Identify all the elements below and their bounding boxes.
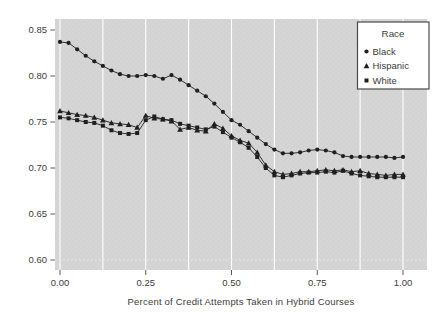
x-tick-label: 1.00 <box>394 277 413 288</box>
series-black-marker <box>118 72 122 76</box>
series-black-marker <box>109 68 113 72</box>
legend-box: RaceBlackHispanicWhite <box>358 22 430 89</box>
legend-item-label: Hispanic <box>373 60 410 71</box>
legend-item-label: White <box>373 75 397 86</box>
chart: 0.850.800.750.700.650.600.000.250.500.75… <box>0 0 438 321</box>
series-black-marker <box>392 156 396 160</box>
series-white-marker <box>255 155 259 159</box>
y-tick-label: 0.70 <box>29 162 48 173</box>
square-legend-icon <box>365 79 369 83</box>
series-black-marker <box>358 155 362 159</box>
y-tick-label: 0.85 <box>29 24 48 35</box>
series-black-marker <box>169 73 173 77</box>
series-black-marker <box>92 59 96 63</box>
series-black-marker <box>127 74 131 78</box>
series-black-marker <box>66 41 70 45</box>
series-black-marker <box>161 77 165 81</box>
series-white-marker <box>109 128 113 132</box>
series-white-marker <box>75 118 79 122</box>
y-tick-label: 0.80 <box>29 70 48 81</box>
y-tick-label: 0.65 <box>29 208 48 219</box>
series-black-marker <box>255 136 259 140</box>
series-black-marker <box>298 150 302 154</box>
chart-canvas: 0.850.800.750.700.650.600.000.250.500.75… <box>0 0 438 321</box>
series-black-marker <box>375 155 379 159</box>
series-black-marker <box>84 54 88 58</box>
series-white-marker <box>144 118 148 122</box>
series-black-marker <box>221 110 225 114</box>
series-black-marker <box>152 74 156 78</box>
y-tick-label: 0.75 <box>29 116 48 127</box>
series-black-marker <box>324 148 328 152</box>
series-white-marker <box>118 131 122 135</box>
series-black-marker <box>58 40 62 44</box>
y-tick-label: 0.60 <box>29 254 48 265</box>
x-axis-title: Percent of Credit Attempts Taken in Hybr… <box>55 296 427 307</box>
x-tick-label: 0.00 <box>51 277 70 288</box>
series-black-marker <box>212 102 216 106</box>
series-black-marker <box>341 154 345 158</box>
series-white-marker <box>58 115 62 119</box>
series-black-marker <box>332 150 336 154</box>
series-black-marker <box>187 83 191 87</box>
series-black-marker <box>272 148 276 152</box>
series-white-marker <box>135 131 139 135</box>
series-black-marker <box>401 155 405 159</box>
series-white-marker <box>67 116 71 120</box>
series-black-marker <box>195 89 199 93</box>
legend-item-label: Black <box>373 46 396 57</box>
legend-title: Race <box>382 28 405 39</box>
series-black-marker <box>101 64 105 68</box>
series-black-marker <box>229 118 233 122</box>
series-white-marker <box>101 124 105 128</box>
series-black-marker <box>315 148 319 152</box>
series-black-marker <box>264 142 268 146</box>
series-white-marker <box>358 173 362 177</box>
series-white-marker <box>84 120 88 124</box>
series-black-marker <box>281 151 285 155</box>
series-black-marker <box>247 129 251 133</box>
series-black-marker <box>204 94 208 98</box>
series-black-marker <box>144 73 148 77</box>
x-tick-label: 0.25 <box>137 277 156 288</box>
x-tick-label: 0.75 <box>308 277 327 288</box>
series-black-marker <box>75 47 79 51</box>
x-tick-label: 0.50 <box>222 277 241 288</box>
series-white-marker <box>178 122 182 126</box>
series-black-marker <box>178 78 182 82</box>
series-black-marker <box>238 123 242 127</box>
series-white-marker <box>92 121 96 125</box>
series-black-marker <box>349 155 353 159</box>
series-black-marker <box>367 155 371 159</box>
series-black-marker <box>135 74 139 78</box>
series-black-marker <box>289 151 293 155</box>
series-white-marker <box>247 146 251 150</box>
series-white-marker <box>127 132 131 136</box>
series-black-marker <box>307 148 311 152</box>
series-black-marker <box>384 155 388 159</box>
circle-legend-icon <box>364 49 368 53</box>
